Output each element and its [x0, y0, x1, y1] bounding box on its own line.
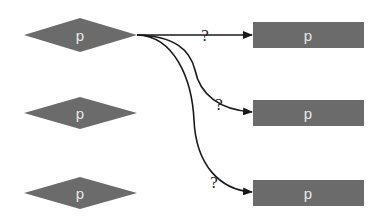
diagram-canvas: p p p p p p ? ? ?: [0, 0, 392, 218]
edge-3: ?: [137, 35, 252, 192]
target-node-3-label: p: [304, 185, 312, 202]
edge-2: ?: [137, 35, 252, 114]
source-node-1: p: [24, 18, 137, 52]
target-node-2: p: [253, 100, 364, 126]
edge-3-label: ?: [210, 173, 218, 192]
edge-1-label: ?: [201, 26, 209, 45]
target-node-1-label: p: [304, 27, 312, 44]
source-node-1-label: p: [76, 27, 84, 44]
edge-2-label: ?: [215, 95, 223, 114]
edge-1: ?: [137, 26, 252, 45]
source-node-2-label: p: [76, 105, 84, 122]
target-node-1: p: [253, 22, 364, 48]
target-node-3: p: [253, 180, 364, 206]
edge-3-arrow: [137, 35, 252, 192]
source-node-3: p: [24, 177, 137, 209]
source-node-2: p: [24, 97, 137, 129]
edge-2-arrow: [137, 35, 252, 112]
target-node-2-label: p: [304, 105, 312, 122]
source-node-3-label: p: [76, 185, 84, 202]
